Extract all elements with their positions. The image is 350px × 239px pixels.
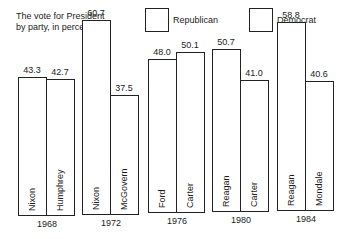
year-label: 1980 bbox=[221, 215, 261, 225]
bar-republican-1972 bbox=[82, 20, 111, 215]
candidate-label: Reagan bbox=[221, 175, 231, 207]
value-label: 43.3 bbox=[17, 65, 47, 75]
value-label: 41.0 bbox=[239, 68, 269, 78]
year-label: 1972 bbox=[91, 218, 131, 228]
candidate-label: Mondale bbox=[314, 171, 324, 206]
candidate-label: Nixon bbox=[91, 187, 101, 210]
legend-republican-label: Republican bbox=[173, 15, 218, 25]
candidate-label: Carter bbox=[185, 183, 195, 208]
year-label: 1984 bbox=[286, 214, 326, 224]
value-label: 50.1 bbox=[175, 40, 205, 50]
value-label: 40.6 bbox=[304, 69, 334, 79]
value-label: 60.7 bbox=[81, 8, 111, 18]
candidate-label: McGovern bbox=[119, 168, 129, 210]
value-label: 50.7 bbox=[211, 37, 241, 47]
candidate-label: Carter bbox=[249, 182, 259, 207]
legend-republican-swatch bbox=[145, 8, 169, 32]
candidate-label: Nixon bbox=[27, 188, 37, 211]
legend-democrat-swatch bbox=[249, 8, 273, 32]
value-label: 42.7 bbox=[45, 67, 75, 77]
value-label: 37.5 bbox=[109, 83, 139, 93]
candidate-label: Reagan bbox=[286, 174, 296, 206]
candidate-label: Ford bbox=[157, 189, 167, 208]
year-label: 1968 bbox=[27, 219, 67, 229]
value-label: 58.8 bbox=[276, 10, 306, 20]
year-label: 1976 bbox=[157, 216, 197, 226]
value-label: 48.0 bbox=[147, 47, 177, 57]
candidate-label: Humphrey bbox=[55, 169, 65, 211]
